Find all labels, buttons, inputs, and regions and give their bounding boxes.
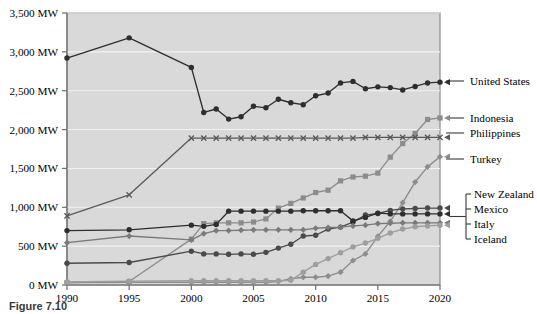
y-axis-tick-label: 500 MW	[18, 240, 59, 252]
data-point-marker	[251, 278, 256, 283]
legend-entry-turkey: Turkey	[444, 153, 502, 165]
data-point-marker	[363, 240, 368, 245]
x-axis-tick-label: 1995	[118, 292, 141, 304]
data-point-marker	[363, 174, 368, 179]
data-point-marker	[338, 80, 343, 85]
data-point-marker	[400, 206, 405, 211]
data-point-marker	[301, 195, 306, 200]
data-point-marker	[375, 84, 380, 89]
data-point-marker	[326, 188, 331, 193]
data-point-marker	[350, 218, 355, 223]
y-axis: 0 MW500 MW1,000 MW1,500 MW2,000 MW2,500 …	[10, 7, 67, 291]
data-point-marker	[251, 219, 256, 224]
legend-arrowhead	[444, 134, 450, 140]
legend-label: Philippines	[470, 127, 520, 139]
data-point-marker	[214, 278, 219, 283]
x-axis: 1990199520002005201020152020	[56, 285, 452, 304]
data-point-marker	[437, 211, 442, 216]
data-point-marker	[412, 211, 417, 216]
data-point-marker	[400, 226, 405, 231]
data-point-marker	[214, 106, 219, 111]
data-point-marker	[338, 208, 343, 213]
data-point-marker	[226, 252, 231, 257]
data-point-marker	[64, 55, 69, 60]
data-point-marker	[388, 155, 393, 160]
data-point-marker	[313, 262, 318, 267]
data-point-marker	[375, 170, 380, 175]
data-point-marker	[251, 252, 256, 257]
y-axis-tick-label: 1,500 MW	[10, 162, 59, 174]
data-point-marker	[214, 222, 219, 227]
data-point-marker	[201, 251, 206, 256]
figure-container: 0 MW500 MW1,000 MW1,500 MW2,000 MW2,500 …	[0, 0, 537, 314]
data-point-marker	[238, 251, 243, 256]
y-axis-tick-label: 3,500 MW	[10, 7, 59, 19]
legend-label: Indonesia	[470, 112, 514, 124]
data-point-marker	[363, 86, 368, 91]
data-point-marker	[400, 141, 405, 146]
data-point-marker	[425, 205, 430, 210]
data-point-marker	[412, 224, 417, 229]
data-point-marker	[338, 178, 343, 183]
data-point-marker	[288, 278, 293, 283]
data-point-marker	[325, 90, 330, 95]
data-point-marker	[350, 174, 355, 179]
data-point-marker	[425, 117, 430, 122]
data-point-marker	[288, 242, 293, 247]
data-point-marker	[276, 97, 281, 102]
data-point-marker	[214, 251, 219, 256]
data-point-marker	[226, 220, 231, 225]
legend-label: Turkey	[470, 153, 502, 165]
data-point-marker	[189, 222, 194, 227]
legend-arrowhead	[444, 205, 450, 211]
legend-label: Mexico	[474, 203, 509, 215]
data-point-marker	[126, 227, 131, 232]
legend-arrowhead	[444, 79, 450, 85]
y-axis-tick-label: 0 MW	[29, 279, 58, 291]
data-point-marker	[437, 79, 442, 84]
legend: United StatesIndonesiaPhilippinesTurkeyN…	[444, 75, 534, 245]
data-point-marker	[437, 205, 442, 210]
data-point-marker	[400, 87, 405, 92]
data-point-marker	[425, 223, 430, 228]
legend-bracket	[450, 194, 471, 239]
legend-label: United States	[470, 75, 530, 87]
data-point-marker	[201, 278, 206, 283]
data-point-marker	[313, 233, 318, 238]
x-axis-tick-label: 2010	[304, 292, 327, 304]
data-point-marker	[400, 211, 405, 216]
data-point-marker	[388, 85, 393, 90]
data-point-marker	[189, 278, 194, 283]
legend-entry-united-states: United States	[444, 75, 530, 87]
y-axis-tick-label: 2,500 MW	[10, 85, 59, 97]
data-point-marker	[301, 269, 306, 274]
data-point-marker	[375, 210, 380, 215]
data-point-marker	[64, 228, 69, 233]
legend-arrowhead	[444, 211, 450, 217]
data-point-marker	[276, 278, 281, 283]
figure-caption: Figure 7.10	[9, 300, 67, 312]
data-point-marker	[412, 206, 417, 211]
data-point-marker	[313, 93, 318, 98]
data-point-marker	[226, 278, 231, 283]
data-point-marker	[437, 222, 442, 227]
x-axis-tick-label: 2020	[429, 292, 452, 304]
data-point-marker	[238, 114, 243, 119]
data-point-marker	[388, 211, 393, 216]
data-point-marker	[350, 244, 355, 249]
data-point-marker	[276, 245, 281, 250]
data-point-marker	[437, 115, 442, 120]
data-point-marker	[338, 250, 343, 255]
data-point-marker	[363, 215, 368, 220]
data-point-marker	[64, 261, 69, 266]
data-point-marker	[276, 208, 281, 213]
data-point-marker	[313, 208, 318, 213]
data-point-marker	[263, 105, 268, 110]
data-point-marker	[388, 230, 393, 235]
data-point-marker	[201, 224, 206, 229]
data-point-marker	[425, 80, 430, 85]
x-axis-tick-label: 2000	[180, 292, 203, 304]
data-point-marker	[251, 208, 256, 213]
legend-label: New Zealand	[474, 188, 534, 200]
data-point-marker	[425, 211, 430, 216]
